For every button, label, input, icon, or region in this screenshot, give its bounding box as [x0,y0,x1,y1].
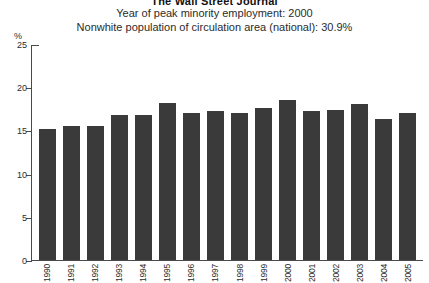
bar-2004 [375,119,392,260]
x-label-slot: 2005 [396,263,420,283]
bar-slot [396,45,420,260]
bar-2003 [351,104,368,260]
x-label-slot: 2003 [348,263,372,283]
y-tick-label: 25 [17,40,27,50]
bar-slot [372,45,396,260]
bar-slot [83,45,107,260]
y-tick-label: 10 [17,170,27,180]
x-label-slot: 1991 [59,263,83,283]
x-axis-label-1996: 1996 [186,264,196,282]
plot-area: 0510152025 [31,45,423,261]
bar-slot [179,45,203,260]
x-axis-label-2004: 2004 [379,264,389,282]
bar-slot [107,45,131,260]
x-axis-label-1998: 1998 [235,264,245,282]
x-axis-label-1995: 1995 [162,264,172,282]
x-axis-label-1994: 1994 [138,264,148,282]
x-axis-label-1992: 1992 [90,264,100,282]
bar-1999 [255,108,272,260]
bar-2001 [303,111,320,260]
x-label-slot: 1993 [107,263,131,283]
x-axis-label-2000: 2000 [283,264,293,282]
y-tick-label: 15 [17,126,27,136]
bar-1990 [39,129,56,260]
x-label-slot: 1995 [155,263,179,283]
x-label-slot: 2000 [276,263,300,283]
y-tick-label: 20 [17,83,27,93]
bar-slot [35,45,59,260]
x-label-slot: 2002 [324,263,348,283]
bar-1994 [135,115,152,260]
x-axis-labels: 1990199119921993199419951996199719981999… [32,263,423,283]
bar-slot [324,45,348,260]
x-label-slot: 1994 [131,263,155,283]
bar-series [32,45,423,260]
x-label-slot: 2004 [372,263,396,283]
x-axis-label-1993: 1993 [114,264,124,282]
bar-slot [203,45,227,260]
x-axis-label-1997: 1997 [210,264,220,282]
bar-1992 [87,126,104,260]
publication-masthead: The Wall Street Journal [0,0,429,6]
bar-slot [276,45,300,260]
bar-1993 [111,115,128,260]
bar-slot [228,45,252,260]
x-axis-label-1990: 1990 [42,264,52,282]
x-label-slot: 1997 [203,263,227,283]
bar-2002 [327,110,344,260]
x-axis-label-2005: 2005 [403,264,413,282]
y-tick-label: 0 [22,256,27,266]
bar-slot [252,45,276,260]
x-axis-label-2001: 2001 [307,264,317,282]
chart-figure: The Wall Street Journal Year of peak min… [0,0,429,283]
bar-slot [155,45,179,260]
x-axis-label-1991: 1991 [66,264,76,282]
x-axis-label-2003: 2003 [355,264,365,282]
bar-1995 [159,103,176,260]
bar-slot [348,45,372,260]
bar-1996 [183,113,200,260]
bar-slot [300,45,324,260]
bar-1991 [63,126,80,260]
x-label-slot: 2001 [300,263,324,283]
y-tick-label: 5 [22,213,27,223]
x-axis-label-2002: 2002 [331,264,341,282]
x-label-slot: 1996 [179,263,203,283]
x-axis-label-1999: 1999 [259,264,269,282]
x-label-slot: 1999 [252,263,276,283]
bar-slot [59,45,83,260]
bar-2005 [399,113,416,260]
bar-1998 [231,113,248,260]
bar-slot [131,45,155,260]
x-label-slot: 1990 [35,263,59,283]
bar-2000 [279,100,296,260]
subtitle-peak-year: Year of peak minority employment: 2000 [0,7,429,19]
subtitle-nonwhite-population: Nonwhite population of circulation area … [0,21,429,33]
x-label-slot: 1992 [83,263,107,283]
bar-1997 [207,111,224,260]
x-label-slot: 1998 [228,263,252,283]
